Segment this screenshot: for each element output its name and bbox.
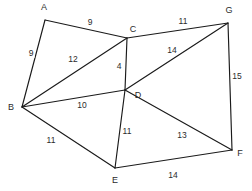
graph-vertex-d: D (135, 91, 142, 100)
graph-edge (125, 38, 127, 90)
graph-vertex-c: C (130, 25, 137, 34)
edge-weight-label: 15 (231, 72, 242, 81)
edge-weight-label: 9 (28, 49, 35, 58)
graph-edge (125, 23, 228, 90)
graph-edge (127, 23, 228, 38)
edge-weight-label: 14 (167, 171, 178, 180)
edge-weight-label: 11 (46, 136, 57, 145)
graph-edge (22, 107, 115, 168)
graph-edge (115, 150, 232, 168)
graph-vertex-a: A (41, 3, 47, 12)
graph-vertex-f: F (237, 149, 243, 158)
weighted-graph-diagram: 991241110141513111114ABCDEFG (0, 0, 252, 191)
edge-weight-label: 14 (166, 46, 177, 55)
graph-vertex-e: E (112, 176, 118, 185)
graph-edge (22, 90, 125, 107)
edge-weight-label: 12 (67, 55, 78, 64)
edge-weight-label: 11 (122, 127, 133, 136)
edge-weight-label: 10 (76, 101, 87, 110)
graph-vertex-b: B (8, 103, 14, 112)
graph-edge (228, 23, 232, 150)
graph-edges-canvas (0, 0, 252, 191)
edge-weight-label: 13 (176, 131, 187, 140)
edge-weight-label: 9 (87, 18, 94, 27)
graph-vertex-g: G (225, 6, 232, 15)
edge-weight-label: 11 (178, 17, 189, 26)
edge-weight-label: 4 (116, 62, 123, 71)
